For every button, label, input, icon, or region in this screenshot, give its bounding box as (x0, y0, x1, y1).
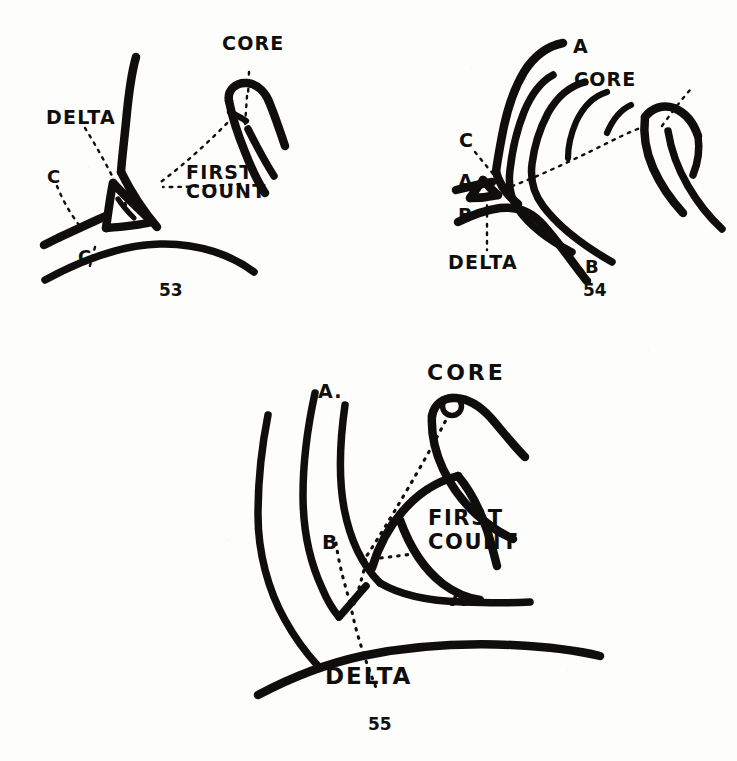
fig55-label-core: CORE (427, 362, 506, 384)
fig54-label-core: CORE (574, 70, 637, 89)
fig55-label-count: COUNT (428, 532, 518, 553)
fig55-label-ridge-a-right: A (450, 589, 467, 610)
fig55-label-ridge-b: B (322, 532, 338, 552)
fig53-label-count: COUNT (186, 182, 266, 201)
fig54-label-ridge-a-left: A (458, 172, 474, 191)
fig54-label-ridge-a-top: A (573, 37, 589, 56)
fig55-label-ridge-a-top: A. (318, 382, 343, 401)
fig53-label-core: CORE (222, 34, 285, 53)
fig53-label-delta: DELTA (46, 108, 116, 127)
fig53-number: 53 (159, 280, 183, 300)
fig55-number: 55 (368, 714, 392, 734)
fig54-label-delta: DELTA (448, 253, 518, 272)
fig55-label-first: FIRST (428, 508, 504, 529)
fig53-label-ridge-c-lower: C (78, 248, 92, 266)
fig54-label-ridge-c: C (459, 131, 474, 150)
fig55-label-delta: DELTA (325, 665, 412, 688)
fig53-label-ridge-c-upper: C (47, 168, 61, 186)
fig54-label-ridge-b-right: B (585, 258, 600, 276)
fig54-number: 54 (583, 280, 607, 300)
figure-plate: .rg{fill:none;stroke:#100e0c;stroke-line… (0, 0, 737, 761)
fig54-label-ridge-b-left: B (458, 206, 474, 225)
